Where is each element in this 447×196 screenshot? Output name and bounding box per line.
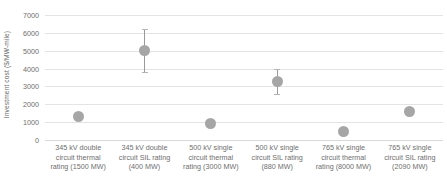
data-point-marker[interactable] [205, 118, 216, 129]
data-point-marker[interactable] [139, 45, 150, 56]
error-bar-cap [142, 29, 148, 30]
x-axis-category-label: 500 kV single circuit SIL rating (880 MW… [246, 143, 308, 172]
investment-cost-scatter-chart: Investment cost ($/MW-mile) 010002000300… [0, 0, 447, 196]
data-point-marker[interactable] [404, 106, 415, 117]
x-axis-category-label: 765 kV single circuit thermal rating (80… [312, 143, 374, 172]
gridline [45, 104, 443, 105]
x-axis-category-label: 765 kV single circuit SIL rating (2090 M… [379, 143, 441, 172]
x-axis-category-label: 345 kV double circuit thermal rating (15… [47, 143, 109, 172]
x-axis-category-labels: 345 kV double circuit thermal rating (15… [45, 143, 443, 196]
gridline [45, 15, 443, 16]
x-axis-category-label: 345 kV double circuit SIL rating (400 MW… [113, 143, 175, 172]
gridline [45, 86, 443, 87]
data-point-marker[interactable] [338, 126, 349, 137]
error-bar-cap [142, 72, 148, 73]
y-axis-tick-label: 0 [35, 136, 39, 145]
y-axis-tick-label: 3000 [23, 82, 39, 91]
error-bar-cap [274, 69, 280, 70]
gridline [45, 122, 443, 123]
y-axis-tick-label: 5000 [23, 46, 39, 55]
data-point-marker[interactable] [272, 76, 283, 87]
y-axis-tick-label: 4000 [23, 64, 39, 73]
y-axis-tick-label: 7000 [23, 11, 39, 20]
x-axis-category-label: 500 kV single circuit thermal rating (30… [180, 143, 242, 172]
y-axis-tick-label: 2000 [23, 100, 39, 109]
y-axis-tick-label: 1000 [23, 118, 39, 127]
gridline [45, 140, 443, 141]
plot-area [45, 15, 443, 140]
y-axis-tick-label: 6000 [23, 28, 39, 37]
gridline [45, 33, 443, 34]
y-axis-tick-labels: 01000200030004000500060007000 [0, 0, 41, 196]
data-point-marker[interactable] [73, 111, 84, 122]
error-bar-cap [274, 94, 280, 95]
gridline [45, 51, 443, 52]
gridline [45, 69, 443, 70]
